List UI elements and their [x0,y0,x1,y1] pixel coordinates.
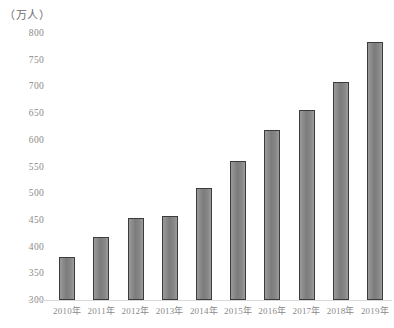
bar [162,216,178,300]
y-axis-unit-caption: （万人） [4,6,50,22]
bar-column [299,33,315,300]
x-axis-tick-label: 2019年 [361,304,389,317]
x-axis-tick-label: 2017年 [293,304,321,317]
x-axis-tick-label: 2018年 [327,304,355,317]
bar [333,82,349,300]
x-axis-tick-label: 2011年 [87,304,115,317]
bar-column [93,33,109,300]
y-axis-tick-label: 350 [29,268,44,278]
x-axis-tick-label: 2014年 [190,304,218,317]
x-axis-tick-label: 2016年 [258,304,286,317]
x-axis-tick-label: 2013年 [156,304,184,317]
y-axis-tick-label: 650 [29,108,44,118]
y-axis-tick-label: 400 [29,242,44,252]
bar [299,110,315,300]
x-axis-tick-label: 2012年 [122,304,150,317]
bar [196,188,212,300]
x-axis-tick-label: 2015年 [224,304,252,317]
bar [264,130,280,300]
bar-column [367,33,383,300]
y-axis-tick-label: 700 [29,81,44,91]
bar-column [162,33,178,300]
bar-column [230,33,246,300]
bar-chart: （万人） 800750700650600550500450400350300 2… [0,0,394,328]
axis-baseline [28,300,392,301]
bar [230,161,246,300]
bar [367,42,383,300]
bar [128,218,144,300]
bar [93,237,109,300]
bar-column [264,33,280,300]
y-axis-tick-label: 450 [29,215,44,225]
bar [59,257,75,300]
bar-column [128,33,144,300]
bar-column [333,33,349,300]
y-axis-tick-label: 500 [29,188,44,198]
x-axis-tick-label: 2010年 [53,304,81,317]
bar-column [59,33,75,300]
y-axis-tick-label: 750 [29,55,44,65]
plot-area [50,33,392,300]
bar-column [196,33,212,300]
y-axis-tick-label: 550 [29,162,44,172]
y-axis-tick-labels: 800750700650600550500450400350300 [0,33,50,300]
y-axis-tick-label: 600 [29,135,44,145]
y-axis-tick-label: 800 [29,28,44,38]
